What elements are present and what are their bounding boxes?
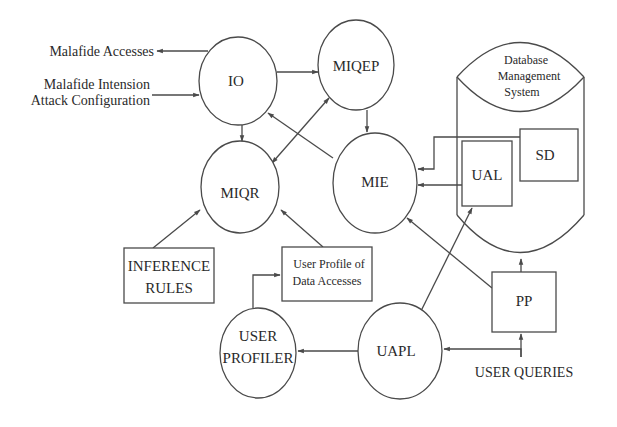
user-profiler-label-line1: USER xyxy=(239,328,277,344)
inference-label-line1: INFERENCE xyxy=(128,258,211,274)
miqep-label: MIQEP xyxy=(333,58,380,74)
user-queries-label: USER QUERIES xyxy=(475,365,573,380)
user-profiler-label-line2: PROFILER xyxy=(223,350,294,366)
edge-profiler-profile xyxy=(253,275,280,308)
sd-box: SD xyxy=(520,129,578,181)
malafide-intension-label-line2: Attack Configuration xyxy=(31,93,150,108)
pp-label: PP xyxy=(516,293,533,309)
node-miqep: MIQEP xyxy=(318,20,394,110)
node-uapl: UAPL xyxy=(358,303,442,399)
uapl-label: UAPL xyxy=(376,343,415,359)
io-label: IO xyxy=(228,73,244,89)
malafide-accesses-label: Malafide Accesses xyxy=(49,44,154,59)
node-io: IO xyxy=(199,37,277,125)
edge-inference-miqr xyxy=(153,210,200,248)
dbms-label-line3: System xyxy=(504,85,540,99)
profile-label-line2: Data Accesses xyxy=(293,274,362,288)
pp-box: PP xyxy=(492,272,556,332)
inference-label-line2: RULES xyxy=(145,280,193,296)
edge-uapl-ual xyxy=(421,208,472,311)
node-user-profiler: USER PROFILER xyxy=(220,308,296,398)
edge-queries-uapl xyxy=(444,349,521,357)
node-mie: MIE xyxy=(333,133,417,233)
miqr-label: MIQR xyxy=(220,185,259,201)
inference-rules-box: INFERENCE RULES xyxy=(124,248,214,303)
ual-label: UAL xyxy=(472,167,503,183)
ual-box: UAL xyxy=(462,141,512,206)
dbms-label-line2: Management xyxy=(498,69,561,83)
malafide-intension-label-line1: Malafide Intension xyxy=(44,77,150,92)
edge-mie-io xyxy=(268,113,333,158)
dbms-label-line1: Database xyxy=(504,53,548,67)
architecture-diagram: Database Management System SD UAL xyxy=(0,0,617,427)
edge-miqep-miqr xyxy=(272,98,329,163)
sd-label: SD xyxy=(535,147,554,163)
profile-label-line1: User Profile of xyxy=(293,257,364,271)
node-miqr: MIQR xyxy=(201,141,279,233)
user-profile-box: User Profile of Data Accesses xyxy=(282,247,372,301)
edge-profile-miqr xyxy=(281,210,323,247)
mie-label: MIE xyxy=(361,174,389,190)
